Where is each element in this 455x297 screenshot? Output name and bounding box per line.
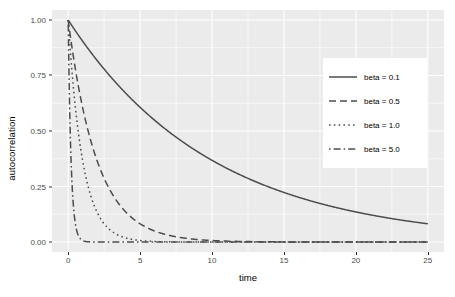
x-tick-label: 0 <box>53 256 83 265</box>
y-tick-mark <box>49 186 52 187</box>
legend-label: beta = 0.5 <box>364 97 400 106</box>
legend-key-3 <box>328 140 358 158</box>
legend-key-0 <box>328 68 358 86</box>
x-tick-mark <box>428 252 429 255</box>
legend-label: beta = 5.0 <box>364 145 400 154</box>
y-tick-label: 0.75 <box>12 71 46 80</box>
x-tick-label: 15 <box>269 256 299 265</box>
x-axis-title: time <box>52 272 444 283</box>
legend: beta = 0.1beta = 0.5beta = 1.0beta = 5.0 <box>323 58 427 168</box>
x-tick-label: 25 <box>413 256 443 265</box>
legend-item[interactable]: beta = 0.1 <box>323 65 427 89</box>
x-tick-mark <box>140 252 141 255</box>
x-tick-label: 20 <box>341 256 371 265</box>
y-tick-mark <box>49 19 52 20</box>
y-tick-mark <box>49 131 52 132</box>
x-tick-mark <box>284 252 285 255</box>
legend-item[interactable]: beta = 0.5 <box>323 89 427 113</box>
x-tick-mark <box>212 252 213 255</box>
legend-key-2 <box>328 116 358 134</box>
y-tick-label: 0.00 <box>12 238 46 247</box>
legend-item[interactable]: beta = 5.0 <box>323 137 427 161</box>
x-tick-mark <box>356 252 357 255</box>
x-tick-mark <box>68 252 69 255</box>
legend-key-1 <box>328 92 358 110</box>
x-tick-label: 5 <box>125 256 155 265</box>
legend-label: beta = 0.1 <box>364 73 400 82</box>
y-tick-label: 1.00 <box>12 15 46 24</box>
legend-item[interactable]: beta = 1.0 <box>323 113 427 137</box>
y-tick-mark <box>49 242 52 243</box>
y-tick-label: 0.50 <box>12 127 46 136</box>
y-tick-mark <box>49 75 52 76</box>
y-axis-title: autocorrelation <box>0 0 22 297</box>
y-tick-label: 0.25 <box>12 182 46 191</box>
x-tick-label: 10 <box>197 256 227 265</box>
autocorrelation-chart: autocorrelation 0.000.250.500.751.00 051… <box>0 0 455 297</box>
legend-label: beta = 1.0 <box>364 121 400 130</box>
